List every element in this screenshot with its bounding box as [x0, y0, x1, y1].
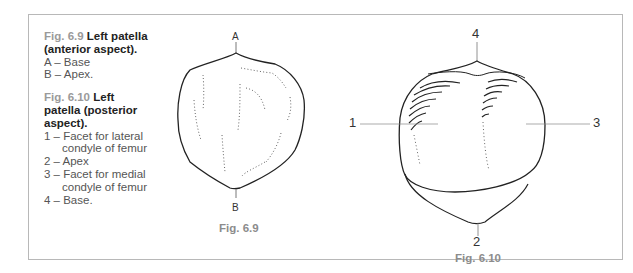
illustrations: A B Fig. 6.9 4 [0, 0, 633, 273]
fig69-patella-anterior-drawing: A B Fig. 6.9 [178, 31, 305, 234]
fig69-marker-a: A [232, 31, 239, 42]
fig69-label: Fig. 6.9 [219, 222, 259, 234]
fig610-marker-1: 1 [349, 115, 356, 130]
fig69-marker-b: B [232, 202, 239, 213]
fig610-patella-posterior-drawing: 4 1 3 2 Fig. 6.10 [349, 26, 600, 264]
fig610-marker-4: 4 [472, 26, 479, 41]
fig610-label: Fig. 6.10 [455, 252, 501, 264]
fig610-marker-3: 3 [593, 115, 600, 130]
fig610-marker-2: 2 [473, 234, 480, 249]
